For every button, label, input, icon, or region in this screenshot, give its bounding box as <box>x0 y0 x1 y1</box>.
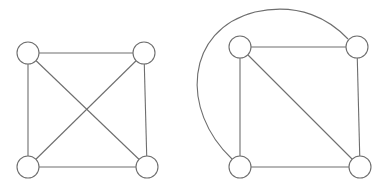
edge-a-d <box>240 47 360 167</box>
node-a <box>17 42 39 64</box>
curved-edge-c-b <box>197 9 348 159</box>
k4-planar-graph <box>197 9 371 178</box>
edge-b-d <box>144 53 147 167</box>
node-b <box>346 36 368 58</box>
node-a <box>229 36 251 58</box>
node-c <box>229 156 251 178</box>
k4-crossing-graph <box>17 42 158 178</box>
node-c <box>17 156 39 178</box>
node-d <box>349 156 371 178</box>
edge-b-d <box>357 47 360 167</box>
node-b <box>133 42 155 64</box>
graph-diagram <box>0 0 388 186</box>
node-d <box>136 156 158 178</box>
